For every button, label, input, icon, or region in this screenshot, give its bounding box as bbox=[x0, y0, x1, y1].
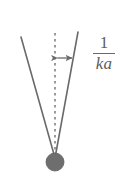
pivot-point-circle bbox=[46, 153, 64, 171]
cone-diagram bbox=[0, 0, 120, 195]
fraction-denominator: ka bbox=[88, 55, 120, 73]
left-cone-ray bbox=[21, 37, 55, 158]
angular-width-label: 1 ka bbox=[88, 34, 120, 73]
right-cone-ray bbox=[55, 32, 78, 158]
figure-container: 1 ka bbox=[0, 0, 120, 195]
fraction-numerator: 1 bbox=[88, 34, 120, 52]
